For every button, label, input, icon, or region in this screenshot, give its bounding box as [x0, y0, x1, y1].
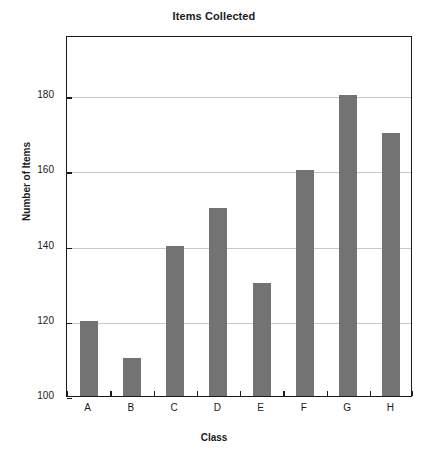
- x-axis-tick: [110, 391, 111, 396]
- x-axis-tick-label: C: [154, 402, 194, 413]
- y-axis-title: Number of Items: [21, 112, 32, 252]
- y-axis-tick-label: 120: [0, 315, 54, 326]
- x-axis-tick: [67, 391, 68, 396]
- y-axis-tick: [67, 398, 72, 399]
- x-axis-tick: [283, 391, 284, 396]
- x-axis-tick-label: D: [197, 402, 237, 413]
- x-axis-tick: [370, 391, 371, 396]
- x-axis-tick: [197, 391, 198, 396]
- plot-area: [66, 36, 412, 397]
- x-axis-tick-label: E: [241, 402, 281, 413]
- bar-chart: Items Collected 100120140160180 ABCDEFGH…: [0, 0, 428, 464]
- x-axis-tick-label: G: [327, 402, 367, 413]
- x-axis-tick: [240, 391, 241, 396]
- x-axis-ticks: [67, 37, 411, 396]
- x-axis-tick: [412, 391, 413, 396]
- x-axis-tick-label: H: [370, 402, 410, 413]
- x-axis-tick-label: A: [68, 402, 108, 413]
- x-axis-tick: [154, 391, 155, 396]
- x-axis-title: Class: [0, 432, 428, 443]
- chart-title: Items Collected: [0, 10, 428, 22]
- x-axis-tick-label: F: [284, 402, 324, 413]
- x-axis-tick: [327, 391, 328, 396]
- y-axis-tick-label: 180: [0, 89, 54, 100]
- x-axis-tick-label: B: [111, 402, 151, 413]
- y-axis-tick-label: 100: [0, 390, 54, 401]
